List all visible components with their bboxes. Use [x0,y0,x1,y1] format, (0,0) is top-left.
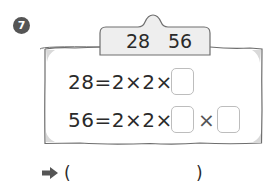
equation-row-2: 56=2×2× [68,108,173,132]
answer-blank-row2-2[interactable] [217,106,240,133]
open-paren: ( [64,163,71,183]
tab-value-28: 28 [126,30,150,52]
times-sign: × [198,108,215,132]
tab-shape [100,15,210,55]
right-arrow-icon [42,167,58,179]
equation-row-1: 28=2×2× [68,70,173,94]
tab-value-56: 56 [168,30,192,52]
answer-blank-row1-1[interactable] [171,68,194,95]
close-paren: ) [196,163,203,183]
answer-blank-row2-1[interactable] [171,106,194,133]
answer-field[interactable] [74,163,194,183]
